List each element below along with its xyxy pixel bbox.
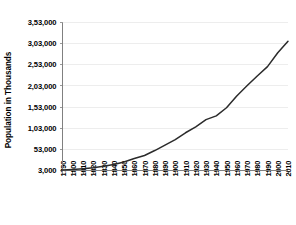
- x-tick-label: 2010: [284, 161, 293, 177]
- y-tick-label: 3,03,000: [28, 39, 57, 48]
- x-tick-label: 1890: [161, 161, 170, 177]
- x-tick-label: 1910: [182, 161, 191, 177]
- y-tick-label: 53,000: [34, 145, 57, 154]
- y-tick-label: 3,53,000: [28, 18, 57, 27]
- x-tick-label: 1830: [100, 161, 109, 177]
- x-tick-label: 1930: [202, 161, 211, 177]
- y-tick-label: 1,03,000: [28, 124, 57, 133]
- y-tick-label: 2,53,000: [28, 60, 57, 69]
- x-tick-label: 1900: [171, 161, 180, 177]
- x-tick-label: 2000: [274, 161, 283, 177]
- y-tick-label: 2,03,000: [28, 82, 57, 91]
- x-tick-label: 1920: [192, 161, 201, 177]
- y-tick-label: 3,000: [38, 166, 57, 175]
- x-tick-label: 1980: [253, 161, 262, 177]
- x-tick-label: 1970: [243, 161, 252, 177]
- x-tick-label: 1990: [264, 161, 273, 177]
- x-tick-label: 1940: [212, 161, 221, 177]
- x-tick-label: 1950: [223, 161, 232, 177]
- x-tick-label: 1960: [233, 161, 242, 177]
- x-tick-label: 1860: [130, 161, 139, 177]
- x-axis-tick-labels: 1790180018101820183018401850186018701880…: [59, 161, 294, 177]
- y-axis-title: Population in Thousands: [4, 51, 13, 148]
- x-tick-label: 1870: [141, 161, 150, 177]
- x-tick-label: 1790: [59, 161, 68, 177]
- x-tick-label: 1880: [151, 161, 160, 177]
- plot-area: [63, 23, 289, 171]
- chart-canvas: 3,00053,0001,03,0001,53,0002,03,0002,53,…: [0, 0, 296, 225]
- y-tick-label: 1,53,000: [28, 103, 57, 112]
- population-line-chart: 3,00053,0001,03,0001,53,0002,03,0002,53,…: [0, 0, 296, 225]
